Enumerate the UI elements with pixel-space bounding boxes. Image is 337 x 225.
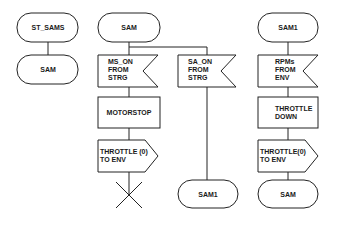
svg-text:ENV: ENV [275, 74, 290, 81]
svg-text:THROTTLE (0): THROTTLE (0) [100, 148, 148, 156]
svg-text:ST_SAMS: ST_SAMS [31, 24, 64, 31]
state-sam-col1: SAM [17, 55, 78, 84]
svg-text:STRG: STRG [108, 74, 128, 81]
sdl-diagram: ST_SAMS SAM SAM MS_ON FROM STRG SA_ON FR… [0, 0, 337, 225]
svg-text:SAM: SAM [280, 191, 296, 198]
svg-text:SA_ON: SA_ON [188, 58, 212, 65]
input-sa-on: SA_ON FROM STRG [178, 55, 236, 87]
svg-text:SAM: SAM [121, 24, 137, 31]
svg-text:TO ENV: TO ENV [100, 156, 126, 163]
branch-connector [129, 47, 207, 55]
start-terminal-st-sams: ST_SAMS [17, 13, 78, 42]
svg-text:THROTTLE: THROTTLE [275, 105, 313, 112]
state-sam-col2: SAM [98, 13, 160, 42]
svg-text:FROM: FROM [275, 66, 296, 73]
state-sam-col3: SAM [258, 180, 318, 208]
svg-text:TO ENV: TO ENV [260, 156, 286, 163]
svg-text:THROTTLE(0): THROTTLE(0) [260, 148, 306, 156]
input-rpms: RPMs FROM ENV [258, 55, 318, 87]
svg-text:SAM1: SAM1 [278, 24, 298, 31]
state-sam1-col3: SAM1 [258, 13, 318, 42]
svg-text:DOWN: DOWN [275, 113, 297, 120]
input-ms-on: MS_ON FROM STRG [98, 55, 158, 87]
svg-text:MOTORSTOP: MOTORSTOP [107, 109, 152, 116]
svg-text:SAM: SAM [40, 66, 56, 73]
svg-text:FROM: FROM [188, 66, 209, 73]
svg-text:FROM: FROM [108, 66, 129, 73]
svg-text:MS_ON: MS_ON [108, 58, 133, 65]
output-throttle-0: THROTTLE (0) TO ENV [98, 140, 158, 172]
output-throttle-0-col3: THROTTLE(0) TO ENV [258, 140, 318, 172]
task-throttle-down: THROTTLE DOWN [258, 97, 318, 128]
svg-text:STRG: STRG [188, 74, 208, 81]
svg-text:RPMs: RPMs [275, 58, 295, 65]
svg-text:SAM1: SAM1 [198, 191, 218, 198]
state-sam1-col2: SAM1 [178, 180, 238, 208]
task-motorstop: MOTORSTOP [98, 97, 160, 128]
